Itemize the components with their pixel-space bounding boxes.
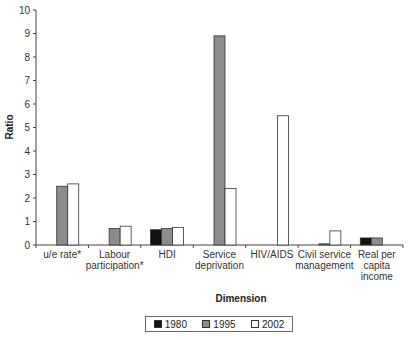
x-tick-label: Service [203, 249, 237, 260]
bar-1995 [214, 36, 225, 245]
bar-1995 [57, 186, 68, 245]
bars [57, 36, 383, 245]
bar-2002 [173, 227, 184, 245]
y-tick-label: 10 [19, 5, 31, 16]
x-axis-title: Dimension [215, 293, 266, 304]
legend-swatch-1980 [154, 320, 162, 328]
bar-1995 [371, 238, 382, 245]
x-tick-label: Civil service [298, 249, 352, 260]
legend-item-1980: 1980 [154, 319, 187, 330]
y-tick-label: 5 [24, 122, 30, 133]
bar-2002 [68, 184, 79, 245]
legend-item-1995: 1995 [202, 319, 235, 330]
x-tick-label: income [361, 271, 394, 282]
y-tick-label: 2 [24, 193, 30, 204]
legend-label: 2002 [262, 319, 284, 330]
x-tick-label: management [295, 260, 354, 271]
y-axis-title: Ratio [4, 115, 15, 140]
x-tick-label: HIV/AIDS [251, 249, 294, 260]
bar-1995 [109, 229, 120, 245]
y-tick-label: 1 [24, 216, 30, 227]
bar-1980 [360, 238, 371, 245]
x-tick-label: participation* [86, 260, 144, 271]
bar-2002 [225, 189, 236, 245]
bar-2002 [120, 226, 131, 245]
bar-2002 [330, 231, 341, 245]
x-tick-label: u/e rate* [43, 249, 81, 260]
y-tick-label: 8 [24, 52, 30, 63]
x-tick-label: Labour [99, 249, 131, 260]
bar-2002 [277, 116, 288, 245]
bar-1995 [319, 244, 330, 245]
legend-label: 1995 [213, 319, 235, 330]
y-tick-label: 6 [24, 99, 30, 110]
y-tick-label: 9 [24, 28, 30, 39]
y-tick-label: 7 [24, 75, 30, 86]
bar-1995 [162, 229, 173, 245]
y-tick-label: 0 [24, 240, 30, 251]
bar-1980 [151, 230, 162, 245]
y-tick-label: 4 [24, 146, 30, 157]
legend: 1980 1995 2002 [145, 316, 293, 332]
x-tick-label: capita [363, 260, 390, 271]
legend-item-2002: 2002 [251, 319, 284, 330]
y-tick-label: 3 [24, 169, 30, 180]
x-tick-label: Real per [358, 249, 396, 260]
legend-swatch-1995 [202, 320, 210, 328]
legend-swatch-2002 [251, 320, 259, 328]
bar-chart: 012345678910 u/e rate*Labourparticipatio… [0, 0, 409, 315]
legend-label: 1980 [165, 319, 187, 330]
x-tick-label: HDI [158, 249, 175, 260]
category-labels: u/e rate*Labourparticipation*HDIServiced… [43, 249, 396, 282]
x-tick-label: deprivation [195, 260, 244, 271]
